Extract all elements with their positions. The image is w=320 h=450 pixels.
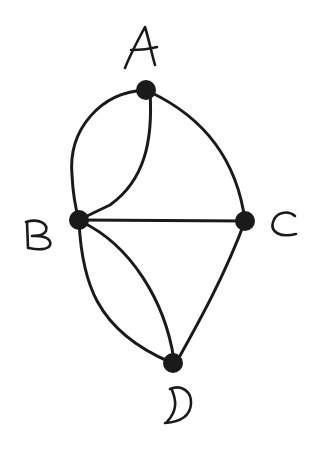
node-b: [69, 210, 89, 230]
label-c-glyph: [272, 213, 296, 236]
edge-a-c: [150, 92, 245, 221]
label-d: D: [180, 405, 181, 406]
label-b: B: [38, 235, 39, 236]
node-d: [163, 353, 183, 373]
label-a-glyph: [125, 27, 157, 68]
node-c: [235, 211, 255, 231]
edge-a-b-outer: [72, 90, 146, 220]
graph-diagram: [0, 0, 320, 450]
node-a: [136, 80, 156, 100]
label-d-glyph: [165, 387, 191, 423]
edge-b-d-outer: [79, 222, 170, 362]
edge-b-c: [79, 220, 245, 221]
label-c: C: [283, 225, 284, 226]
edge-c-d: [176, 221, 245, 363]
edge-a-b-inner: [79, 92, 151, 220]
label-a: A: [140, 45, 141, 46]
